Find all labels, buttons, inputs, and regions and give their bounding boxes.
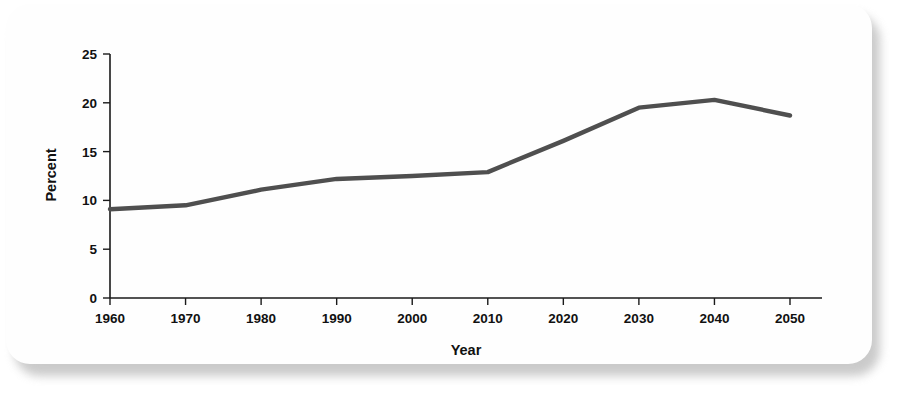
- y-tick-label: 25: [82, 47, 98, 62]
- chart-page: Percent 0510152025 196019701980199020002…: [0, 0, 902, 404]
- x-axis-title: Year: [451, 342, 482, 358]
- y-tick-group: 0510152025: [82, 47, 110, 306]
- x-tick-label: 1980: [246, 311, 276, 326]
- line-chart: Percent 0510152025 196019701980199020002…: [0, 0, 902, 404]
- x-tick-label: 1990: [322, 311, 352, 326]
- series-line-percent: [110, 100, 790, 209]
- x-tick-label: 2010: [473, 311, 503, 326]
- chart-svg: Percent 0510152025 196019701980199020002…: [0, 0, 902, 404]
- y-tick-label: 15: [82, 145, 98, 160]
- y-axis-title: Percent: [43, 148, 59, 201]
- y-tick-label: 10: [82, 193, 97, 208]
- y-tick-label: 5: [89, 242, 97, 257]
- x-tick-label: 2050: [775, 311, 805, 326]
- x-tick-label: 2040: [699, 311, 729, 326]
- x-tick-label: 1960: [95, 311, 125, 326]
- y-tick-label: 20: [82, 96, 97, 111]
- series-group: [110, 100, 790, 209]
- axes: [110, 54, 822, 298]
- x-tick-label: 2000: [397, 311, 427, 326]
- x-tick-label: 2020: [548, 311, 578, 326]
- y-tick-label: 0: [89, 291, 97, 306]
- x-tick-group: 1960197019801990200020102020203020402050: [95, 298, 805, 326]
- x-tick-label: 1970: [171, 311, 201, 326]
- x-tick-label: 2030: [624, 311, 654, 326]
